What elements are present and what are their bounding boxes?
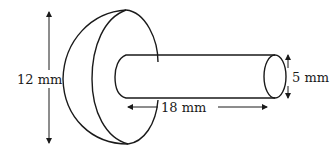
hemisphere-face-right-arc [126,10,158,62]
dimension-cylinder-length: 18 mm [128,100,267,115]
hemisphere-outer-curve [63,10,128,144]
label-18mm: 18 mm [161,100,206,115]
hemisphere-face-left-arc [92,10,128,144]
label-5mm: 5 mm [292,70,329,85]
cylinder-end-cap [264,55,286,98]
label-12mm: 12 mm [17,72,62,87]
cylinder [115,55,286,98]
hemisphere [63,10,158,144]
dimension-hemisphere-diameter: 12 mm [16,12,62,143]
cylinder-body [115,55,275,98]
dimension-cylinder-diameter: 5 mm [288,55,329,98]
diagram-canvas: 12 mm 18 mm 5 mm [0,0,334,151]
